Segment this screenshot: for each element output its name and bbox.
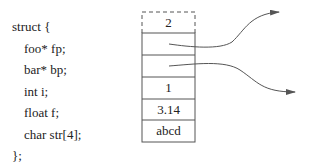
cell-fp xyxy=(142,34,195,56)
cell-bp xyxy=(142,55,195,77)
cell-str: abcd xyxy=(142,120,195,142)
cell-f: 3.14 xyxy=(142,99,195,121)
cell-header: 2 xyxy=(142,12,195,34)
cell-i: 1 xyxy=(142,77,195,99)
